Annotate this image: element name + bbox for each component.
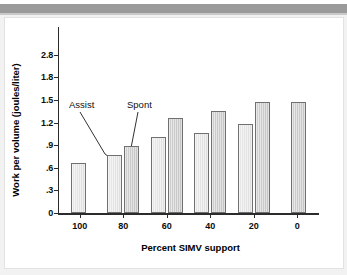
- bar-assist-80: [107, 155, 122, 213]
- y-tick-label: .3: [46, 185, 53, 195]
- y-tick-label: 0: [48, 208, 53, 218]
- x-tick-label: 0: [295, 221, 300, 231]
- bar-assist-100: [71, 163, 86, 213]
- plot-area: 2.81.81.51.2.9.6.30 100806040200: [58, 27, 323, 221]
- figure-card: Work per volume (joules/liter) Percent S…: [4, 17, 344, 269]
- y-tick-label: 1.5: [41, 95, 53, 105]
- x-tick-mark: [210, 213, 211, 218]
- bar-assist-40: [194, 133, 209, 213]
- x-tick-mark: [123, 213, 124, 218]
- x-tick-label: 40: [205, 221, 215, 231]
- figure-page: Work per volume (joules/liter) Percent S…: [0, 0, 347, 275]
- y-axis-line: [58, 27, 59, 213]
- y-tick-mark: [54, 77, 58, 78]
- x-tick-mark: [80, 213, 81, 218]
- x-tick-label: 20: [249, 221, 259, 231]
- x-tick-mark: [167, 213, 168, 218]
- y-tick-mark: [54, 168, 58, 169]
- y-tick-mark: [54, 213, 58, 214]
- y-tick-label: .9: [46, 140, 53, 150]
- y-axis-title: Work per volume (joules/liter): [10, 63, 21, 196]
- y-tick-label: .6: [46, 163, 53, 173]
- x-tick-label: 100: [72, 221, 87, 231]
- x-axis-line: [58, 213, 319, 215]
- bar-spont-80: [124, 146, 139, 213]
- bar-spont-40: [211, 111, 226, 213]
- x-axis-title: Percent SIMV support: [58, 242, 323, 253]
- y-tick-mark: [54, 100, 58, 101]
- y-tick-label: 1.8: [41, 72, 53, 82]
- y-tick-mark: [54, 123, 58, 124]
- header-band: [0, 4, 347, 13]
- x-tick-mark: [297, 213, 298, 218]
- bar-spont-0: [291, 102, 306, 213]
- y-tick-mark: [54, 190, 58, 191]
- y-tick-label: 1.2: [41, 118, 53, 128]
- x-tick-mark: [254, 213, 255, 218]
- x-tick-label: 60: [162, 221, 172, 231]
- y-tick-mark: [54, 145, 58, 146]
- bar-assist-60: [151, 137, 166, 213]
- y-tick-mark: [54, 55, 58, 56]
- bar-assist-20: [238, 124, 253, 213]
- x-tick-label: 80: [118, 221, 128, 231]
- bar-spont-20: [255, 102, 270, 213]
- bar-spont-60: [168, 118, 183, 213]
- y-tick-label: 2.8: [41, 50, 53, 60]
